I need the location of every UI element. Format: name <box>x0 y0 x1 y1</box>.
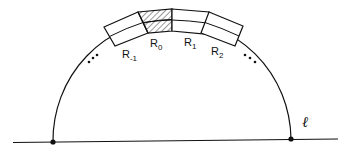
semicircle-diagram: R-1 R0 R1 R2 ℓ <box>0 0 345 158</box>
label-r2: R2 <box>211 45 224 60</box>
left-endpoint-dot <box>50 139 55 144</box>
right-endpoint-dot <box>288 136 293 141</box>
label-r0: R0 <box>150 37 163 52</box>
ellipsis-right <box>244 54 257 64</box>
line-label-ell: ℓ <box>302 113 308 131</box>
semicircle-arc <box>53 19 291 142</box>
ellipsis-left <box>88 54 99 64</box>
label-r1: R1 <box>184 36 197 51</box>
label-r-minus-1: R-1 <box>122 48 138 63</box>
